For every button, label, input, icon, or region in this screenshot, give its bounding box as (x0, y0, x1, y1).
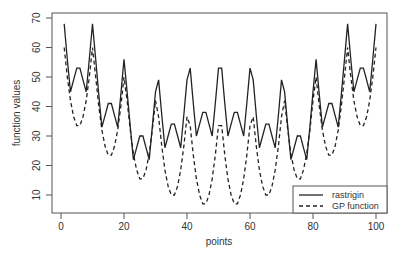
y-tick-label: 60 (31, 42, 42, 54)
gp-function-line (64, 48, 376, 204)
x-tick-label: 60 (244, 221, 256, 232)
legend: rastrigin GP function (293, 186, 387, 213)
x-axis-label: points (206, 236, 233, 247)
y-tick-label: 70 (31, 12, 42, 24)
plot-frame (52, 13, 387, 213)
y-tick-label: 50 (31, 71, 42, 83)
legend-label-gp: GP function (332, 201, 379, 211)
x-tick-label: 20 (118, 221, 130, 232)
x-axis: 020406080100 (58, 213, 385, 232)
x-tick-label: 0 (58, 221, 64, 232)
rastrigin-line (64, 24, 376, 160)
y-tick-label: 40 (31, 101, 42, 113)
y-axis: 10203040506070 (31, 12, 52, 201)
x-tick-label: 80 (307, 221, 319, 232)
x-tick-label: 100 (368, 221, 385, 232)
y-tick-label: 20 (31, 160, 42, 172)
y-axis-label: function values (11, 80, 22, 147)
legend-label-rastrigin: rastrigin (332, 190, 364, 200)
plot-lines (64, 24, 376, 204)
y-tick-label: 30 (31, 130, 42, 142)
x-tick-label: 40 (181, 221, 193, 232)
chart: 10203040506070 020406080100 points funct… (0, 0, 402, 257)
y-tick-label: 10 (31, 189, 42, 201)
